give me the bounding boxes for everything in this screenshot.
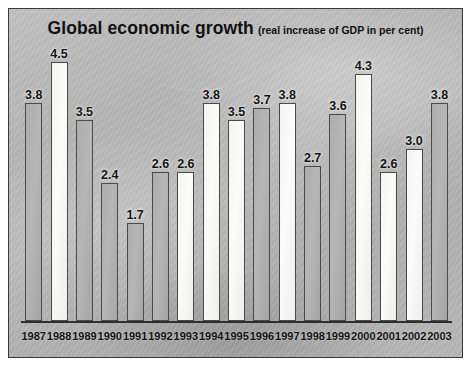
bar-slot: 3.8 bbox=[427, 45, 452, 321]
bar-slot: 2.4 bbox=[97, 45, 122, 321]
chart-title: Global economic growth(real increase of … bbox=[9, 18, 462, 39]
bar-value-label: 4.5 bbox=[50, 47, 67, 61]
bar-slot: 3.5 bbox=[224, 45, 249, 321]
bar-value-label: 3.7 bbox=[253, 93, 270, 107]
bar[interactable]: 2.6 bbox=[380, 172, 397, 322]
bar[interactable]: 4.5 bbox=[51, 62, 68, 321]
x-axis-label-1993: 1993 bbox=[173, 330, 198, 342]
bar-value-label: 2.6 bbox=[177, 157, 194, 171]
x-axis-label-1989: 1989 bbox=[72, 330, 97, 342]
x-axis-label-1999: 1999 bbox=[325, 330, 350, 342]
bar[interactable]: 3.6 bbox=[329, 114, 346, 321]
chart-figure: Global economic growth(real increase of … bbox=[8, 8, 463, 358]
bar-value-label: 3.0 bbox=[405, 134, 422, 148]
bar-slot: 3.8 bbox=[275, 45, 300, 321]
x-axis-label-1990: 1990 bbox=[97, 330, 122, 342]
x-axis-label-1995: 1995 bbox=[224, 330, 249, 342]
bar-value-label: 1.7 bbox=[126, 208, 143, 222]
x-axis-label-1994: 1994 bbox=[199, 330, 224, 342]
bar-value-label: 3.8 bbox=[279, 88, 296, 102]
x-axis-label-2001: 2001 bbox=[376, 330, 401, 342]
bar-slot: 3.5 bbox=[72, 45, 97, 321]
bar-value-label: 3.8 bbox=[25, 88, 42, 102]
x-axis-label-1997: 1997 bbox=[275, 330, 300, 342]
bar[interactable]: 3.8 bbox=[279, 103, 296, 322]
bar-slot: 3.6 bbox=[325, 45, 350, 321]
bar-value-label: 3.8 bbox=[202, 88, 219, 102]
bar[interactable]: 3.8 bbox=[431, 103, 448, 322]
bar[interactable]: 3.8 bbox=[203, 103, 220, 322]
bar[interactable]: 3.8 bbox=[25, 103, 42, 322]
bar-value-label: 3.5 bbox=[228, 105, 245, 119]
bar[interactable]: 3.7 bbox=[253, 108, 270, 321]
bar[interactable]: 3.5 bbox=[76, 120, 93, 321]
bar[interactable]: 2.4 bbox=[101, 183, 118, 321]
x-axis-label-1987: 1987 bbox=[21, 330, 46, 342]
x-axis-label-1988: 1988 bbox=[46, 330, 71, 342]
x-axis-label-1991: 1991 bbox=[122, 330, 147, 342]
bar[interactable]: 1.7 bbox=[127, 223, 144, 321]
bar[interactable]: 2.6 bbox=[152, 172, 169, 322]
bar[interactable]: 3.5 bbox=[228, 120, 245, 321]
bar-slot: 1.7 bbox=[122, 45, 147, 321]
x-axis-label-1996: 1996 bbox=[249, 330, 274, 342]
bar-slot: 4.5 bbox=[46, 45, 71, 321]
bar-slot: 3.0 bbox=[401, 45, 426, 321]
x-axis-line bbox=[21, 321, 452, 323]
bar-series: 3.84.53.52.41.72.62.63.83.53.73.82.73.64… bbox=[21, 45, 452, 321]
x-axis-label-1992: 1992 bbox=[148, 330, 173, 342]
bar-value-label: 2.6 bbox=[152, 157, 169, 171]
bar-value-label: 4.3 bbox=[355, 59, 372, 73]
bar-slot: 3.8 bbox=[199, 45, 224, 321]
plot-area: 3.84.53.52.41.72.62.63.83.53.73.82.73.64… bbox=[21, 45, 452, 323]
chart-title-subtitle: (real increase of GDP in per cent) bbox=[258, 24, 424, 36]
bar-value-label: 3.8 bbox=[431, 88, 448, 102]
bar-slot: 2.6 bbox=[173, 45, 198, 321]
chart-title-main: Global economic growth bbox=[48, 18, 254, 38]
bar-value-label: 2.4 bbox=[101, 168, 118, 182]
bar-slot: 3.8 bbox=[21, 45, 46, 321]
bar-value-label: 2.7 bbox=[304, 151, 321, 165]
bar-value-label: 3.5 bbox=[76, 105, 93, 119]
x-axis-tick-labels: 1987198819891990199119921993199419951996… bbox=[21, 327, 452, 345]
bar[interactable]: 2.7 bbox=[304, 166, 321, 321]
bar-value-label: 2.6 bbox=[380, 157, 397, 171]
x-axis-label-2000: 2000 bbox=[351, 330, 376, 342]
bar[interactable]: 4.3 bbox=[355, 74, 372, 321]
bar-slot: 4.3 bbox=[351, 45, 376, 321]
bar-slot: 3.7 bbox=[249, 45, 274, 321]
bar[interactable]: 2.6 bbox=[177, 172, 194, 322]
x-axis-label-2002: 2002 bbox=[401, 330, 426, 342]
x-axis-label-1998: 1998 bbox=[300, 330, 325, 342]
bar-slot: 2.6 bbox=[376, 45, 401, 321]
bar-slot: 2.6 bbox=[148, 45, 173, 321]
bar-value-label: 3.6 bbox=[329, 99, 346, 113]
bar[interactable]: 3.0 bbox=[406, 149, 423, 322]
bar-slot: 2.7 bbox=[300, 45, 325, 321]
x-axis-label-2003: 2003 bbox=[427, 330, 452, 342]
